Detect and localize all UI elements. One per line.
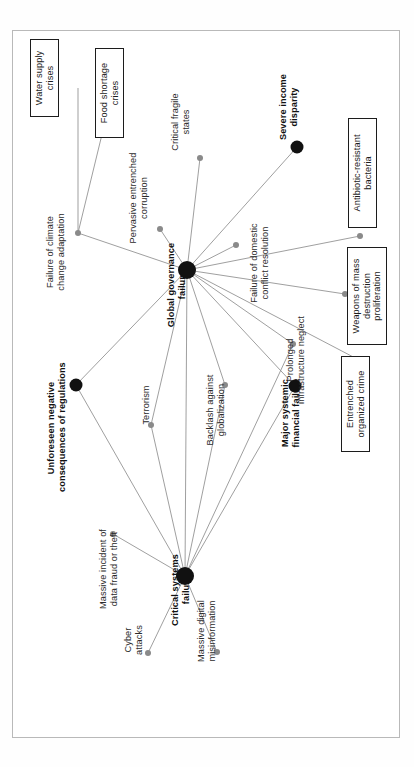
node-label-organized_crime: Entrenched organized crime bbox=[341, 356, 370, 452]
network-node-unforeseen_reg[interactable] bbox=[70, 379, 83, 392]
network-node-critical_fragile[interactable] bbox=[197, 155, 203, 161]
node-label-backlash: Backlash against globalization bbox=[205, 368, 226, 452]
node-label-water_supply: Water supply crises bbox=[30, 39, 59, 117]
node-label-critical_fragile: Critical fragile states bbox=[170, 84, 191, 160]
network-edge bbox=[76, 385, 185, 576]
node-label-digital_misinfo: Massive digital misinformation bbox=[196, 590, 217, 672]
node-label-severe_income: Severe income disparity bbox=[278, 67, 299, 147]
network-node-cyber_attacks[interactable] bbox=[145, 650, 151, 656]
network-edge bbox=[187, 270, 359, 360]
node-label-food_shortage: Food shortage crises bbox=[95, 48, 124, 138]
network-node-climate_adaptation[interactable] bbox=[75, 230, 81, 236]
node-label-domestic_conflict: Failure of domestic conflict resolution bbox=[249, 214, 270, 312]
network-edge bbox=[187, 270, 293, 344]
node-label-antibiotic: Antibiotic-resistant bacteria bbox=[348, 118, 377, 228]
network-edge bbox=[185, 386, 295, 576]
node-label-pervasive_corruption: Pervasive entrenched corruption bbox=[128, 146, 149, 250]
risk-network-figure: Water supply crisesFood shortage crisesF… bbox=[0, 0, 414, 767]
node-label-financial_failure: Major systemic financial failure bbox=[280, 371, 301, 455]
node-label-unforeseen_reg: Unforeseen negative consequences of regu… bbox=[46, 364, 67, 492]
node-label-critical_systems: Critical systems failure bbox=[170, 547, 191, 633]
network-edge bbox=[187, 270, 295, 386]
node-label-cyber_attacks: Cyber attacks bbox=[123, 614, 144, 666]
node-label-global_governance: Global governance failure bbox=[166, 238, 187, 332]
network-edge bbox=[185, 344, 293, 576]
network-edge bbox=[187, 158, 200, 270]
network-edge bbox=[78, 122, 105, 233]
node-label-climate_adaptation: Failure of climate change adaptation bbox=[45, 206, 66, 298]
network-node-pervasive_corruption[interactable] bbox=[157, 226, 163, 232]
node-label-data_fraud: Massive incident of data fraud or theft bbox=[98, 522, 119, 616]
network-node-antibiotic[interactable] bbox=[357, 233, 363, 239]
node-label-wmd: Weapons of mass destruction proliferatio… bbox=[347, 247, 387, 345]
node-label-terrorism: Terrorism bbox=[141, 378, 152, 432]
network-node-domestic_conflict[interactable] bbox=[233, 242, 239, 248]
